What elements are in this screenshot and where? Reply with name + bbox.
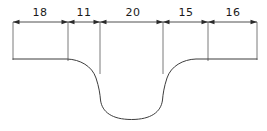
- arrowhead-left-20-2: [100, 20, 107, 25]
- arrowhead-left-16-4: [208, 20, 215, 25]
- arrowhead-right-20-2: [157, 20, 164, 25]
- dimension-label-15: 15: [179, 6, 194, 19]
- profile-path: [13, 59, 257, 120]
- engineering-drawing-canvas: 1811201516: [0, 0, 267, 131]
- dimension-label-20: 20: [126, 6, 141, 19]
- arrowhead-right-18-0: [62, 20, 69, 25]
- arrowhead-right-15-3: [202, 20, 209, 25]
- arrowhead-left-11-1: [68, 20, 75, 25]
- extension-lines-group: [13, 22, 257, 74]
- drawing-svg: 1811201516: [0, 0, 267, 131]
- arrowhead-left-15-3: [163, 20, 170, 25]
- arrowhead-left-18-0: [13, 20, 20, 25]
- dimension-label-11: 11: [77, 6, 92, 19]
- arrowhead-right-16-4: [251, 20, 258, 25]
- dimension-label-18: 18: [33, 6, 48, 19]
- dimension-labels-group: 1811201516: [33, 6, 241, 19]
- dimension-label-16: 16: [226, 6, 241, 19]
- part-profile-outline: [13, 59, 257, 120]
- arrowhead-right-11-1: [94, 20, 101, 25]
